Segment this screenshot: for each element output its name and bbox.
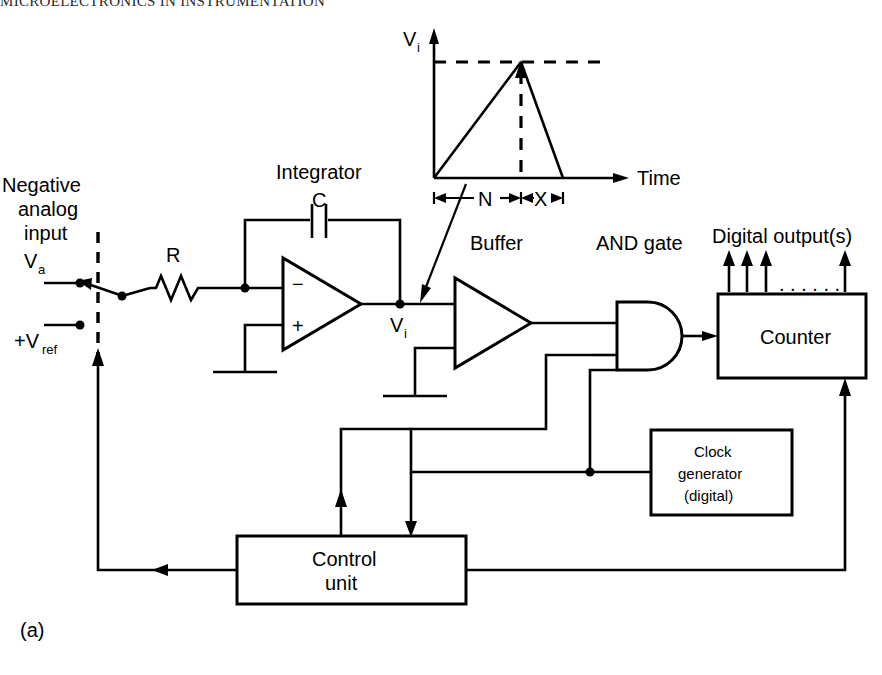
reference-label: +V <box>14 330 40 352</box>
control-unit-line1: Control <box>312 548 376 570</box>
integrator-output-node <box>396 300 405 309</box>
waveform-ramp-up <box>434 62 521 178</box>
control-unit-block: Control unit <box>237 536 466 604</box>
vref-terminal-node <box>76 321 85 330</box>
buffer-amplifier <box>455 278 531 368</box>
waveform-y-axis-arrowhead <box>429 28 439 44</box>
waveform-y-label-sub: i <box>417 40 420 55</box>
figure-label: (a) <box>20 619 44 641</box>
capacitor-label: C <box>312 189 326 211</box>
waveform-n-arrow-left <box>434 193 446 203</box>
counter-block: Counter Digital output(s) . . . . . . <box>712 225 866 378</box>
opamp-inverting-sign: − <box>292 273 304 295</box>
waveform-x-arrow-left <box>521 193 533 203</box>
digital-output-label: Digital output(s) <box>712 225 852 247</box>
digital-output-ellipsis: . . . . . . <box>779 273 840 295</box>
buffer-stage: Buffer <box>383 232 617 396</box>
waveform-n-label: N <box>478 188 492 210</box>
waveform-n-arrow-right <box>509 193 521 203</box>
control-unit-to-bus-wire <box>341 429 411 536</box>
clock-generator-block: Clock generator (digital) <box>651 430 792 515</box>
clock-generator-line1: Clock <box>694 443 732 460</box>
integrator-output-label-sub: i <box>404 326 407 341</box>
switch-to-resistor-wire <box>122 288 150 296</box>
waveform-inset: V i Time N X <box>403 28 681 303</box>
waveform-ramp-down <box>521 62 563 178</box>
control-unit-to-counter-arrowhead <box>839 378 851 396</box>
waveform-pointer-arrowhead <box>420 284 431 303</box>
and-gate-title: AND gate <box>596 232 683 254</box>
buffer-ground-wire <box>415 348 455 396</box>
clock-to-and-gate-wire <box>411 355 651 472</box>
and-gate <box>617 302 682 370</box>
waveform-x-axis-arrowhead <box>613 173 629 183</box>
digital-output-arrow-1-head <box>723 250 735 266</box>
dual-slope-adc-block-diagram: V i Time N X Negative anal <box>0 0 882 675</box>
opamp-noninverting-sign: + <box>292 315 304 337</box>
analog-input-section: Negative analog input V a +V ref <box>2 174 127 368</box>
integrator-title: Integrator <box>276 161 362 183</box>
clock-generator-line3: (digital) <box>684 487 733 504</box>
waveform-x-arrow-right <box>551 193 563 203</box>
integrator-output-label: V <box>390 314 404 336</box>
control-unit-to-bus-arrowhead <box>335 489 347 507</box>
input-signal-label-sub: a <box>38 262 46 277</box>
waveform-x-label-span: X <box>534 188 547 210</box>
control-unit-to-switch-arrowhead <box>152 564 168 576</box>
figure-page: MICROELECTRONICS IN INSTRUMENTATION V i … <box>0 0 882 675</box>
input-title-line2: analog <box>18 198 78 220</box>
counter-label: Counter <box>760 326 831 348</box>
and-gate-output-arrowhead <box>702 331 718 341</box>
digital-output-arrow-2-head <box>741 250 753 266</box>
control-unit-to-switch-wire <box>98 352 237 570</box>
integrator-stage: Integrator C R − + <box>122 161 455 372</box>
reference-label-sub: ref <box>42 342 58 357</box>
control-unit-line2: unit <box>325 572 358 594</box>
input-signal-label: V <box>24 250 38 272</box>
clock-branch-to-and-gate-wire <box>590 370 617 472</box>
clock-generator-line2: generator <box>678 465 742 482</box>
resistor-label: R <box>166 244 180 266</box>
waveform-x-label: Time <box>637 167 681 189</box>
resistor-symbol <box>150 276 206 300</box>
waveform-y-label: V <box>403 28 417 50</box>
buffer-title: Buffer <box>470 232 523 254</box>
input-title-line1: Negative <box>2 174 81 196</box>
input-title-line3: input <box>24 222 68 244</box>
digital-output-arrow-3-head <box>760 250 772 266</box>
and-gate-stage: AND gate <box>592 232 718 370</box>
opamp-noninverting-to-ground-wire <box>245 325 283 372</box>
digital-output-arrow-last-head <box>839 250 851 266</box>
